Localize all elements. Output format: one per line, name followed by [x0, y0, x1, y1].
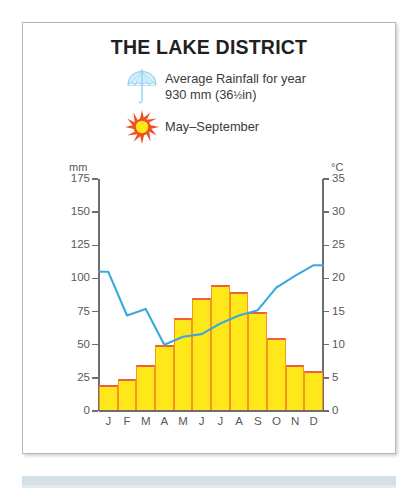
bottom-decorative-band-light: [22, 485, 396, 488]
right-axis-tick: [323, 344, 329, 345]
left-axis-tick-label: 75: [66, 305, 90, 317]
left-axis-tick-label: 50: [66, 338, 90, 350]
legend-item-rainfall: Average Rainfall for year 930 mm (36½in): [119, 67, 397, 107]
umbrella-icon: [119, 69, 165, 105]
legend-item-sunshine: May–September: [119, 107, 397, 147]
plot-inner: [99, 179, 323, 411]
legend-label-rainfall: Average Rainfall for year 930 mm (36½in): [165, 71, 306, 103]
month-label: D: [304, 415, 323, 427]
temperature-line: [99, 179, 323, 411]
right-axis-tick-label: 5: [332, 371, 356, 383]
left-axis-tick: [92, 245, 98, 246]
left-axis-tick-label: 25: [66, 371, 90, 383]
left-axis-tick: [92, 311, 98, 312]
left-axis-tick-label: 125: [66, 238, 90, 250]
month-label: F: [118, 415, 137, 427]
left-axis-tick-label: 100: [66, 271, 90, 283]
legend: Average Rainfall for year 930 mm (36½in): [119, 67, 397, 147]
legend-rainfall-line2-post: in): [242, 87, 256, 102]
left-axis-tick: [92, 344, 98, 345]
legend-label-sunshine: May–September: [165, 119, 259, 135]
left-axis-tick: [92, 178, 98, 179]
month-label: O: [267, 415, 286, 427]
right-axis-tick: [323, 178, 329, 179]
right-axis-tick-label: 10: [332, 338, 356, 350]
left-axis-tick: [92, 377, 98, 378]
month-label: M: [174, 415, 193, 427]
left-axis-tick: [92, 211, 98, 212]
right-axis-tick-label: 15: [332, 305, 356, 317]
right-axis-tick: [323, 245, 329, 246]
plot-area: mm °C 1751501251007550250 35302520151050…: [66, 167, 356, 421]
right-axis-tick-label: 0: [332, 404, 356, 416]
month-label: J: [192, 415, 211, 427]
right-axis-tick-label: 25: [332, 238, 356, 250]
left-axis-tick-label: 0: [66, 404, 90, 416]
legend-rainfall-line2-pre: 930 mm (36: [165, 87, 233, 102]
left-axis-tick: [92, 278, 98, 279]
right-axis-tick: [323, 311, 329, 312]
left-axis-tick-label: 175: [66, 172, 90, 184]
bottom-decorative-band: [22, 476, 396, 485]
right-axis-tick-label: 30: [332, 205, 356, 217]
month-label: M: [136, 415, 155, 427]
right-axis-tick-label: 20: [332, 271, 356, 283]
left-axis-tick: [92, 410, 98, 411]
right-axis-tick: [323, 410, 329, 411]
month-label: A: [155, 415, 174, 427]
month-axis-labels: JFMAMJJASOND: [99, 415, 323, 427]
page-title: THE LAKE DISTRICT: [36, 35, 382, 59]
month-label: S: [248, 415, 267, 427]
chart-panel: THE LAKE DISTRICT Average Rainfall for y…: [22, 22, 396, 454]
right-axis-tick: [323, 377, 329, 378]
right-axis-tick: [323, 211, 329, 212]
left-axis-tick-label: 150: [66, 205, 90, 217]
legend-rainfall-fraction: ½: [233, 89, 242, 101]
legend-rainfall-line1: Average Rainfall for year: [165, 71, 306, 86]
right-axis-tick-label: 35: [332, 172, 356, 184]
month-label: A: [230, 415, 249, 427]
month-label: J: [211, 415, 230, 427]
month-label: J: [99, 415, 118, 427]
month-label: N: [286, 415, 305, 427]
x-axis-baseline: [99, 410, 323, 412]
right-axis-tick: [323, 278, 329, 279]
sun-icon: [119, 110, 165, 144]
